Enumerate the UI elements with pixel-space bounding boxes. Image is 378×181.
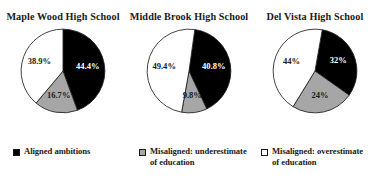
legend-item-misaligned-overestimate: Misaligned: overestimate of education [252, 146, 378, 168]
slice-value-label: 32% [330, 55, 347, 65]
slice-value-label: 40.8% [202, 61, 226, 71]
charts-row: Maple Wood High School 44.4%16.7%38.9% M… [0, 0, 378, 140]
legend-label-line2: of education [150, 157, 195, 167]
chart-title: Maple Wood High School [6, 11, 119, 22]
legend: Aligned ambitions Misaligned: underestim… [0, 146, 378, 168]
chart-title: Middle Brook High School [130, 11, 249, 22]
slice-value-label: 44% [283, 56, 300, 66]
legend-label-line1: Aligned ambitions [24, 146, 90, 156]
pie-wrap: 44.4%16.7%38.9% [17, 25, 109, 117]
legend-label: Aligned ambitions [24, 146, 90, 157]
legend-label-line1: Misaligned: overestimate [272, 146, 363, 156]
legend-swatch-icon [139, 149, 146, 156]
chart-middle-brook: Middle Brook High School 40.8%9.8%49.4% [126, 0, 252, 140]
slice-value-label: 9.8% [183, 90, 202, 100]
legend-swatch-icon [261, 149, 268, 156]
legend-label: Misaligned: underestimate of education [150, 146, 247, 168]
slice-value-label: 38.9% [28, 56, 52, 66]
legend-item-misaligned-underestimate: Misaligned: underestimate of education [126, 146, 252, 168]
slice-value-label: 49.4% [152, 61, 176, 71]
pie-chart-svg: 44.4%16.7%38.9% [17, 25, 109, 117]
chart-maple-wood: Maple Wood High School 44.4%16.7%38.9% [0, 0, 126, 140]
pie-wrap: 32%24%44% [269, 25, 361, 117]
pie-chart-figure: Maple Wood High School 44.4%16.7%38.9% M… [0, 0, 378, 181]
legend-swatch-icon [13, 149, 20, 156]
chart-title: Del Vista High School [267, 11, 364, 22]
slice-value-label: 16.7% [47, 90, 71, 100]
legend-label: Misaligned: overestimate of education [272, 146, 363, 168]
pie-chart-svg: 32%24%44% [269, 25, 361, 117]
chart-del-vista: Del Vista High School 32%24%44% [252, 0, 378, 140]
slice-value-label: 44.4% [76, 61, 100, 71]
legend-label-line1: Misaligned: underestimate [150, 146, 247, 156]
pie-chart-svg: 40.8%9.8%49.4% [143, 25, 235, 117]
legend-label-line2: of education [272, 157, 317, 167]
legend-item-aligned-ambitions: Aligned ambitions [0, 146, 126, 168]
slice-value-label: 24% [312, 90, 329, 100]
pie-wrap: 40.8%9.8%49.4% [143, 25, 235, 117]
